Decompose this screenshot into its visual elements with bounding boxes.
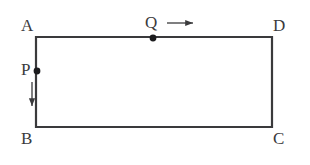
- vertex-label-a: A: [21, 17, 33, 34]
- rectangle-abcd-outline: [36, 37, 272, 127]
- vertex-label-d: D: [273, 17, 285, 34]
- point-p-marker: [34, 68, 41, 75]
- point-q-marker: [150, 35, 157, 42]
- vertex-label-c: C: [273, 130, 284, 147]
- point-label-q: Q: [145, 14, 157, 31]
- geometry-figure-canvas: A D C B Q P: [0, 0, 310, 165]
- point-label-p: P: [21, 61, 30, 78]
- vertex-label-b: B: [21, 130, 32, 147]
